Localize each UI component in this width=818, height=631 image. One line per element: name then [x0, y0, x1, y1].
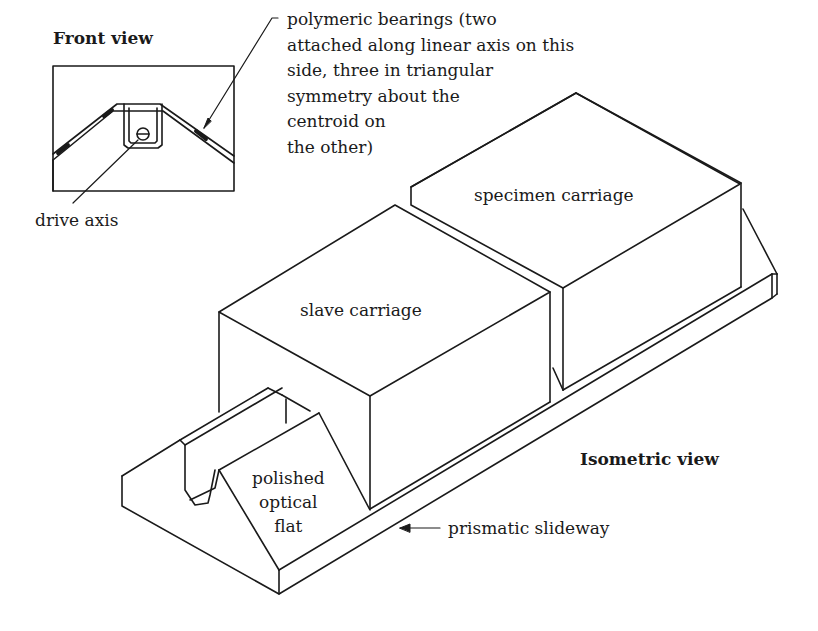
- front-view-title: Front view: [53, 28, 153, 48]
- drive-axis-label: drive axis: [35, 210, 118, 230]
- slideway-diagram: Front view polymeric bearings (two attac…: [0, 0, 818, 631]
- slave-carriage-label: slave carriage: [300, 300, 422, 320]
- specimen-carriage-label: specimen carriage: [474, 185, 634, 205]
- prismatic-slideway-label: prismatic slideway: [448, 518, 609, 538]
- polished-optical-flat-label: polished optical flat: [252, 466, 325, 538]
- isometric-view-title: Isometric view: [580, 449, 719, 469]
- polymeric-bearings-label: polymeric bearings (two attached along l…: [287, 7, 574, 160]
